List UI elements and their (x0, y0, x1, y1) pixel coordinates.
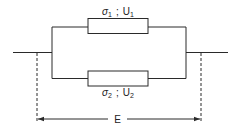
element-1-box (88, 19, 148, 34)
dimension-label: E (114, 114, 121, 125)
right-arrowhead-icon (194, 117, 200, 121)
element-2-sigma-sub: 2 (108, 92, 112, 99)
element-1-var-sub: 1 (130, 11, 134, 18)
element-1-sigma-sub: 1 (108, 11, 112, 18)
element-2-var-sub: 2 (130, 92, 134, 99)
element-2-box (88, 71, 148, 86)
parallel-circuit-diagram: σ1;U1 σ2;U2 E (0, 0, 242, 131)
element-2-label: σ2;U2 (102, 87, 134, 99)
element-1-label: σ1;U1 (102, 6, 134, 18)
element-1-separator: ; (116, 6, 119, 17)
left-arrowhead-icon (38, 117, 44, 121)
element-2-separator: ; (116, 87, 119, 98)
element-1-var: U (123, 6, 130, 17)
element-2-var: U (123, 87, 130, 98)
